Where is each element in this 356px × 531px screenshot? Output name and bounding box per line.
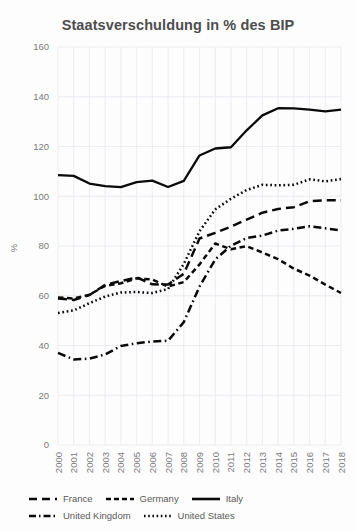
y-tick-label: 60	[38, 290, 49, 301]
y-axis-tick-labels: 020406080100120140160	[33, 41, 49, 450]
y-tick-label: 40	[38, 340, 49, 351]
legend-item-italy[interactable]: Italy	[191, 493, 243, 504]
x-tick-label: 2018	[336, 452, 347, 473]
x-tick-label: 2015	[288, 452, 299, 473]
x-tick-label: 2016	[304, 452, 315, 473]
x-tick-label: 2014	[273, 452, 284, 473]
y-tick-label: 160	[33, 41, 49, 52]
x-tick-label: 2003	[100, 452, 111, 473]
x-tick-label: 2013	[257, 452, 268, 473]
legend-label-united-kingdom: United Kingdom	[63, 510, 131, 521]
chart-container: Staatsverschuldung in % des BIP 02040608…	[0, 0, 356, 531]
x-tick-label: 2009	[194, 452, 205, 473]
legend-swatch-italy	[191, 494, 221, 504]
x-tick-label: 2012	[241, 452, 252, 473]
x-tick-label: 2005	[131, 452, 142, 473]
x-axis-tick-labels: 2000200120022003200420052006200720082009…	[53, 452, 347, 473]
legend-label-united-states: United States	[178, 510, 235, 521]
y-tick-label: 140	[33, 91, 49, 102]
x-tick-label: 2006	[147, 452, 158, 473]
x-tick-label: 2004	[115, 452, 126, 473]
x-tick-label: 2007	[163, 452, 174, 473]
legend-item-united-kingdom[interactable]: United Kingdom	[28, 510, 131, 521]
x-tick-label: 2008	[178, 452, 189, 473]
y-tick-label: 0	[44, 439, 49, 450]
legend-swatch-united-states	[143, 511, 173, 521]
legend-row-2: United Kingdom United States	[28, 507, 338, 524]
legend-label-germany: Germany	[140, 493, 179, 504]
x-tick-label: 2001	[68, 452, 79, 473]
legend-swatch-france	[28, 494, 58, 504]
y-tick-label: 80	[38, 240, 49, 251]
x-tick-label: 2002	[84, 452, 95, 473]
y-tick-label: 120	[33, 141, 49, 152]
legend-label-italy: Italy	[226, 493, 243, 504]
x-tick-label: 2011	[225, 452, 236, 472]
legend-row-1: France Germany Italy	[28, 490, 338, 507]
chart-legend: France Germany Italy United Kingdom	[28, 490, 338, 524]
x-tick-label: 2000	[53, 452, 64, 473]
y-tick-label: 20	[38, 390, 49, 401]
x-tick-label: 2010	[210, 452, 221, 473]
legend-item-france[interactable]: France	[28, 493, 93, 504]
y-axis-label: %	[8, 243, 19, 252]
chart-plot-area: 020406080100120140160 200020012002200320…	[0, 0, 356, 490]
legend-item-united-states[interactable]: United States	[143, 510, 235, 521]
legend-label-france: France	[63, 493, 93, 504]
legend-swatch-united-kingdom	[28, 511, 58, 521]
y-tick-label: 100	[33, 191, 49, 202]
legend-swatch-germany	[105, 494, 135, 504]
x-tick-label: 2017	[320, 452, 331, 473]
legend-item-germany[interactable]: Germany	[105, 493, 179, 504]
